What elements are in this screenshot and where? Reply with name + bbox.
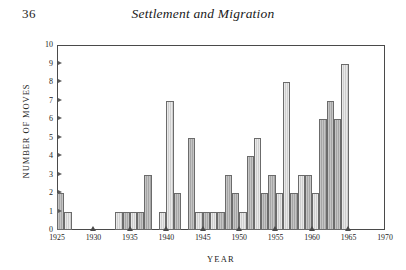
y-tick-marker-8 <box>58 79 62 83</box>
y-tick-label-9: 9 <box>31 59 53 68</box>
bar-1948 <box>225 175 232 231</box>
x-tick-marker-1940 <box>163 226 169 231</box>
y-tick-marker-6 <box>58 116 62 120</box>
bar-1954 <box>268 175 275 231</box>
bar-1963 <box>334 119 341 230</box>
bar-1926 <box>64 212 71 231</box>
y-axis-label: NUMBER OF MOVES <box>21 61 31 201</box>
y-tick-label-6: 6 <box>31 114 53 123</box>
y-tick-label-5: 5 <box>31 133 53 142</box>
bar-1946 <box>210 212 217 231</box>
bar-1940 <box>166 101 173 231</box>
y-tick-label-10: 10 <box>31 40 53 49</box>
x-axis-label: YEAR <box>57 254 385 264</box>
bar-1959 <box>305 175 312 231</box>
y-tick-label-2: 2 <box>31 188 53 197</box>
x-tick-label-1945: 1945 <box>188 233 218 242</box>
y-tick-marker-7 <box>58 98 62 102</box>
y-tick-label-4: 4 <box>31 151 53 160</box>
x-tick-marker-1950 <box>236 226 242 231</box>
bar-1937 <box>144 175 151 231</box>
plot-area: 012345678910 192519301935194019451950195… <box>57 45 385 230</box>
bar-1955 <box>276 193 283 230</box>
x-tick-label-1940: 1940 <box>151 233 181 242</box>
bar-1952 <box>254 138 261 231</box>
x-tick-label-1970: 1970 <box>370 233 400 242</box>
y-tick-label-3: 3 <box>31 170 53 179</box>
bar-1957 <box>290 193 297 230</box>
axis-right-spine <box>384 45 385 230</box>
x-tick-label-1930: 1930 <box>78 233 108 242</box>
bar-1943 <box>188 138 195 231</box>
x-tick-label-1935: 1935 <box>115 233 145 242</box>
x-tick-marker-1930 <box>90 226 96 231</box>
histogram-figure: NUMBER OF MOVES 012345678910 19251930193… <box>0 30 406 270</box>
running-head: 36 Settlement and Migration <box>0 6 406 28</box>
running-title: Settlement and Migration <box>0 6 406 22</box>
x-tick-marker-1945 <box>200 226 206 231</box>
page: 36 Settlement and Migration NUMBER OF MO… <box>0 0 406 270</box>
bar-1964 <box>341 64 348 231</box>
y-tick-label-8: 8 <box>31 77 53 86</box>
bar-1961 <box>319 119 326 230</box>
bar-1947 <box>217 212 224 231</box>
x-tick-label-1950: 1950 <box>224 233 254 242</box>
y-tick-label-1: 1 <box>31 207 53 216</box>
bar-1962 <box>327 101 334 231</box>
bar-1958 <box>298 175 305 231</box>
bar-1951 <box>247 156 254 230</box>
y-tick-marker-9 <box>58 61 62 65</box>
y-tick-marker-1 <box>58 209 62 213</box>
x-tick-label-1965: 1965 <box>334 233 364 242</box>
bar-1953 <box>261 193 268 230</box>
x-tick-marker-1935 <box>127 226 133 231</box>
bar-1956 <box>283 82 290 230</box>
y-tick-label-7: 7 <box>31 96 53 105</box>
x-tick-marker-1965 <box>345 226 351 231</box>
axis-top-spine <box>57 45 385 46</box>
y-tick-marker-2 <box>58 190 62 194</box>
x-tick-marker-1955 <box>272 226 278 231</box>
x-tick-marker-1960 <box>309 226 315 231</box>
x-tick-label-1925: 1925 <box>42 233 72 242</box>
y-tick-marker-4 <box>58 153 62 157</box>
x-tick-label-1960: 1960 <box>297 233 327 242</box>
x-tick-label-1955: 1955 <box>261 233 291 242</box>
y-tick-marker-3 <box>58 172 62 176</box>
bar-1960 <box>312 193 319 230</box>
bar-1933 <box>115 212 122 231</box>
bar-1936 <box>137 212 144 231</box>
bar-1941 <box>174 193 181 230</box>
bar-1949 <box>232 193 239 230</box>
y-tick-marker-5 <box>58 135 62 139</box>
